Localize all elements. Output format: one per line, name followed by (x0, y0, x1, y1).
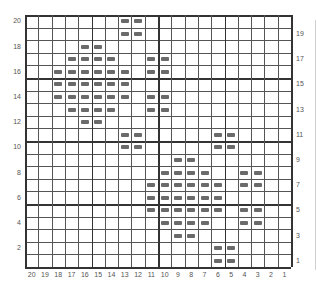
purl-stitch-icon (214, 208, 222, 212)
grid-column-line (25, 15, 27, 267)
purl-stitch-icon (81, 95, 89, 99)
grid-column-line (38, 15, 39, 267)
purl-stitch-icon (147, 196, 155, 200)
purl-stitch-icon (121, 19, 129, 23)
purl-stitch-icon (201, 196, 209, 200)
purl-stitch-icon (240, 208, 248, 212)
purl-stitch-icon (94, 45, 102, 49)
purl-stitch-icon (147, 208, 155, 212)
column-label: 15 (91, 271, 105, 279)
grid-column-line (211, 15, 212, 267)
purl-stitch-icon (134, 145, 142, 149)
column-label: 17 (65, 271, 79, 279)
purl-stitch-icon (81, 70, 89, 74)
purl-stitch-icon (161, 208, 169, 212)
column-label: 4 (237, 271, 251, 279)
column-label: 7 (198, 271, 212, 279)
purl-stitch-icon (54, 95, 62, 99)
purl-stitch-icon (174, 158, 182, 162)
purl-stitch-icon (214, 183, 222, 187)
purl-stitch-icon (214, 145, 222, 149)
row-label: 20 (5, 17, 21, 25)
row-label: 18 (5, 43, 21, 51)
purl-stitch-icon (147, 108, 155, 112)
grid-column-line (65, 15, 66, 267)
purl-stitch-icon (81, 108, 89, 112)
purl-stitch-icon (107, 70, 115, 74)
purl-stitch-icon (121, 70, 129, 74)
purl-stitch-icon (81, 45, 89, 49)
row-label: 10 (5, 143, 21, 151)
purl-stitch-icon (54, 82, 62, 86)
purl-stitch-icon (240, 221, 248, 225)
grid-column-line (145, 15, 146, 267)
grid-column-line (92, 15, 94, 267)
grid-column-line (291, 15, 293, 267)
purl-stitch-icon (147, 95, 155, 99)
purl-stitch-icon (240, 171, 248, 175)
column-label: 12 (131, 271, 145, 279)
row-label: 3 (296, 232, 300, 240)
row-label: 2 (5, 244, 21, 252)
purl-stitch-icon (174, 208, 182, 212)
purl-stitch-icon (107, 95, 115, 99)
purl-stitch-icon (161, 171, 169, 175)
row-label: 19 (296, 30, 304, 38)
row-label: 12 (5, 118, 21, 126)
purl-stitch-icon (174, 183, 182, 187)
purl-stitch-icon (147, 70, 155, 74)
purl-stitch-icon (201, 221, 209, 225)
purl-stitch-icon (240, 183, 248, 187)
row-label: 4 (5, 219, 21, 227)
purl-stitch-icon (227, 145, 235, 149)
purl-stitch-icon (187, 158, 195, 162)
grid-column-line (251, 15, 252, 267)
purl-stitch-icon (68, 82, 76, 86)
grid-column-line (105, 15, 106, 267)
grid-row-line (25, 267, 291, 269)
grid-column-line (158, 15, 160, 267)
page-edge-divider (315, 20, 316, 270)
purl-stitch-icon (134, 133, 142, 137)
purl-stitch-icon (134, 19, 142, 23)
purl-stitch-icon (174, 196, 182, 200)
purl-stitch-icon (81, 82, 89, 86)
purl-stitch-icon (254, 221, 262, 225)
column-label: 13 (118, 271, 132, 279)
purl-stitch-icon (68, 57, 76, 61)
column-label: 5 (224, 271, 238, 279)
grid-column-line (225, 15, 227, 267)
purl-stitch-icon (187, 171, 195, 175)
row-label: 6 (5, 194, 21, 202)
purl-stitch-icon (174, 234, 182, 238)
grid-column-line (52, 15, 53, 267)
purl-stitch-icon (81, 57, 89, 61)
grid-column-line (171, 15, 172, 267)
grid-column-line (264, 15, 265, 267)
purl-stitch-icon (214, 196, 222, 200)
purl-stitch-icon (254, 183, 262, 187)
purl-stitch-icon (187, 234, 195, 238)
purl-stitch-icon (94, 57, 102, 61)
purl-stitch-icon (81, 120, 89, 124)
purl-stitch-icon (107, 82, 115, 86)
row-label: 7 (296, 181, 300, 189)
purl-stitch-icon (107, 57, 115, 61)
purl-stitch-icon (161, 57, 169, 61)
row-label: 16 (5, 68, 21, 76)
purl-stitch-icon (134, 32, 142, 36)
column-label: 14 (104, 271, 118, 279)
purl-stitch-icon (227, 246, 235, 250)
column-label: 9 (171, 271, 185, 279)
row-label: 9 (296, 156, 300, 164)
purl-stitch-icon (187, 221, 195, 225)
purl-stitch-icon (94, 120, 102, 124)
row-label: 14 (5, 93, 21, 101)
knitting-chart-grid (25, 15, 291, 267)
column-label: 1 (277, 271, 291, 279)
purl-stitch-icon (68, 70, 76, 74)
purl-stitch-icon (161, 221, 169, 225)
purl-stitch-icon (161, 95, 169, 99)
purl-stitch-icon (161, 70, 169, 74)
purl-stitch-icon (161, 108, 169, 112)
